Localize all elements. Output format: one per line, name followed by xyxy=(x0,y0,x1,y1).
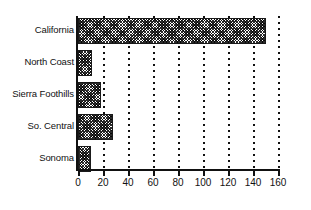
bar-sierra-foothills xyxy=(78,82,101,108)
x-tick-140 xyxy=(253,171,255,176)
bar-california xyxy=(78,18,266,44)
x-tick-60 xyxy=(153,171,155,176)
y-axis-label-north-coast: North Coast xyxy=(0,57,74,67)
y-axis-label-so-central: So. Central xyxy=(0,121,74,131)
y-axis-label-california: California xyxy=(0,25,74,35)
bar-chart: California North Coast Sierra Foothills … xyxy=(0,0,311,210)
bar-so-central xyxy=(78,114,113,140)
x-tick-120 xyxy=(228,171,230,176)
x-tick-40 xyxy=(128,171,130,176)
plot-area xyxy=(78,16,278,168)
x-tick-0 xyxy=(78,171,80,176)
x-tick-label-160: 160 xyxy=(258,177,298,189)
x-tick-80 xyxy=(178,171,180,176)
y-axis-category-labels: California North Coast Sierra Foothills … xyxy=(0,16,74,168)
x-tick-20 xyxy=(103,171,105,176)
x-tick-160 xyxy=(278,171,280,176)
gridline-160 xyxy=(278,16,280,168)
bar-north-coast xyxy=(78,50,92,76)
x-tick-100 xyxy=(203,171,205,176)
y-axis-label-sonoma: Sonoma xyxy=(0,153,74,163)
y-axis-label-sierra-foothills: Sierra Foothills xyxy=(0,89,74,99)
